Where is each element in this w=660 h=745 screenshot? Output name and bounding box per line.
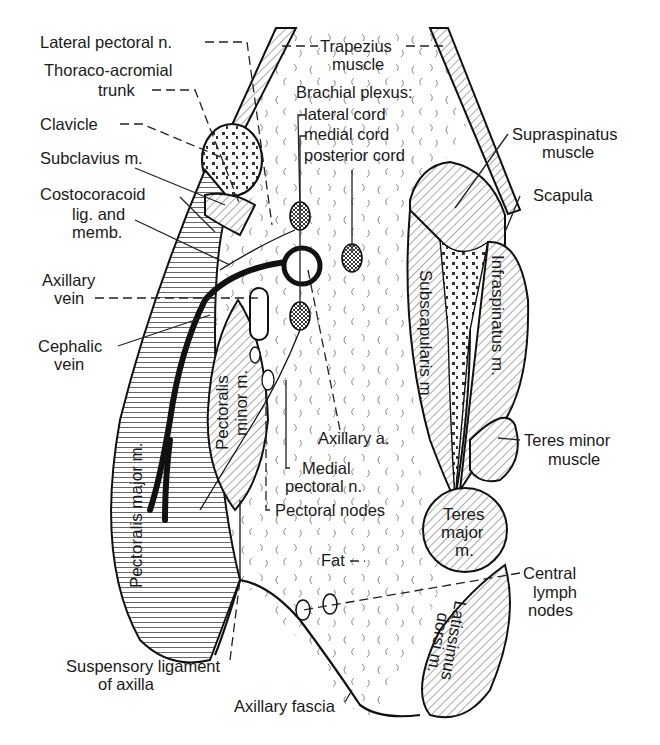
label-central-lymph-2: lymph (533, 583, 577, 601)
label-infraspinatus: Infraspinatus m. (488, 255, 507, 376)
label-pectoralis-major: Pectoralis major m. (127, 443, 146, 588)
label-axillary-a: Axillary a. (318, 429, 390, 447)
label-subscapularis: Subscapularis m. (416, 270, 435, 400)
label-axillary-vein: Axillary (42, 271, 96, 289)
axillary-artery (284, 248, 320, 284)
label-lateral-pectoral-n: Lateral pectoral n. (40, 33, 172, 51)
label-supraspinatus: Supraspinatus (512, 125, 618, 143)
label-pectoral-nodes: Pectoral nodes (275, 501, 385, 519)
label-cephalic-vein-2: vein (54, 355, 84, 373)
label-medial-cord: medial cord (304, 125, 389, 143)
label-medial-pectoral-2: pectoral n. (285, 477, 362, 495)
label-costocoracoid-memb: memb. (72, 223, 122, 241)
label-clavicle: Clavicle (40, 115, 98, 133)
label-central-lymph: Central (523, 564, 576, 582)
label-central-lymph-3: nodes (528, 601, 573, 619)
label-brachial-plexus: Brachial plexus: (296, 83, 412, 101)
label-thoraco-acromial-trunk: trunk (98, 81, 135, 99)
label-teres-minor: Teres minor (524, 431, 611, 449)
label-teres-major: Teres (443, 505, 485, 524)
label-trapezius-muscle: muscle (332, 55, 384, 73)
label-costocoracoid: Costocoracoid (40, 185, 145, 203)
label-costocoracoid-lig: lig. and (72, 205, 125, 223)
label-trapezius: Trapezius (320, 37, 392, 55)
label-supraspinatus-muscle: muscle (542, 143, 594, 161)
label-axillary-vein-2: vein (54, 289, 84, 307)
label-pectoralis-minor-2: minor m. (232, 370, 251, 436)
label-fat: Fat (321, 551, 345, 569)
axillary-vein-loop (250, 288, 268, 340)
label-lateral-cord: lateral cord (304, 105, 386, 123)
label-teres-major-2: major (441, 523, 484, 542)
label-pectoralis-minor: Pectoralis (213, 375, 232, 450)
label-axillary-fascia: Axillary fascia (234, 697, 336, 715)
label-medial-pectoral: Medial (302, 459, 351, 477)
label-thoraco-acromial: Thoraco-acromial (44, 61, 172, 79)
label-suspensory-ligament: Suspensory ligament (66, 657, 220, 675)
label-suspensory-ligament-2: of axilla (98, 675, 155, 693)
central-lymph-node (296, 600, 310, 620)
label-posterior-cord: posterior cord (304, 146, 405, 164)
axilla-cross-section-diagram: Lateral pectoral n. Thoraco-acromial tru… (0, 0, 660, 745)
label-teres-major-3: m. (455, 541, 474, 560)
label-teres-minor-muscle: muscle (548, 450, 600, 468)
pectoral-node (250, 347, 260, 363)
label-scapula: Scapula (533, 186, 593, 204)
pectoral-node (262, 370, 274, 390)
label-subclavius: Subclavius m. (40, 149, 143, 167)
label-cephalic-vein: Cephalic (38, 337, 102, 355)
